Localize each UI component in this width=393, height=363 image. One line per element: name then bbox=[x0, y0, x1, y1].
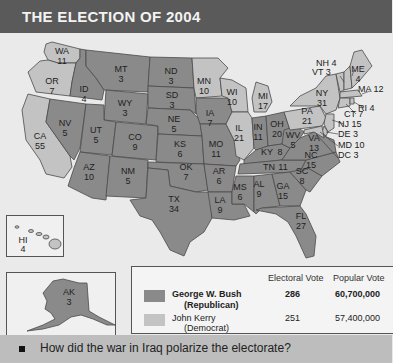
kerry-party: (Democrat) bbox=[184, 323, 229, 334]
svg-text:21: 21 bbox=[302, 116, 312, 126]
state-fl[interactable] bbox=[256, 206, 316, 258]
svg-text:ME: ME bbox=[351, 64, 365, 74]
bush-popular: 60,700,000 bbox=[335, 289, 380, 299]
popular-vote-header: Popular Vote bbox=[333, 273, 385, 283]
svg-text:MS: MS bbox=[233, 182, 247, 192]
question-text: How did the war in Iraq polarize the ele… bbox=[40, 341, 291, 355]
svg-text:4: 4 bbox=[20, 244, 25, 254]
svg-text:OR: OR bbox=[45, 76, 59, 86]
svg-text:55: 55 bbox=[35, 141, 45, 151]
svg-text:7: 7 bbox=[207, 118, 212, 128]
svg-text:4: 4 bbox=[81, 94, 86, 104]
svg-text:SD: SD bbox=[166, 90, 179, 100]
svg-text:3: 3 bbox=[122, 108, 127, 118]
bush-electoral: 286 bbox=[285, 289, 300, 299]
svg-text:5: 5 bbox=[125, 176, 130, 186]
svg-text:OK: OK bbox=[179, 162, 192, 172]
svg-text:NM: NM bbox=[121, 166, 135, 176]
svg-text:WA: WA bbox=[55, 46, 69, 56]
svg-text:NJ 15: NJ 15 bbox=[338, 119, 362, 129]
svg-text:WI: WI bbox=[227, 87, 238, 97]
svg-text:LA: LA bbox=[214, 195, 225, 205]
republican-swatch bbox=[144, 290, 165, 302]
state-ri[interactable] bbox=[350, 98, 354, 104]
svg-text:OH: OH bbox=[270, 119, 284, 129]
svg-text:3: 3 bbox=[169, 100, 174, 110]
state-hi-island[interactable] bbox=[15, 226, 19, 228]
svg-text:DE 3: DE 3 bbox=[338, 129, 358, 139]
svg-text:AL: AL bbox=[253, 179, 264, 189]
svg-text:UT: UT bbox=[90, 125, 102, 135]
democrat-swatch bbox=[144, 314, 165, 326]
hawaii-inset: HI 4 bbox=[6, 215, 64, 257]
svg-text:8: 8 bbox=[299, 176, 304, 186]
svg-text:NY: NY bbox=[316, 88, 329, 98]
svg-text:5: 5 bbox=[93, 135, 98, 145]
state-hi-island[interactable] bbox=[36, 233, 42, 236]
svg-text:15: 15 bbox=[306, 160, 316, 170]
svg-text:IL: IL bbox=[235, 123, 243, 133]
svg-text:11: 11 bbox=[278, 162, 287, 172]
svg-text:VA: VA bbox=[308, 133, 319, 143]
svg-text:6: 6 bbox=[216, 176, 221, 186]
svg-text:6: 6 bbox=[237, 192, 242, 202]
svg-text:ID: ID bbox=[80, 84, 90, 94]
svg-text:ND: ND bbox=[165, 66, 178, 76]
svg-text:27: 27 bbox=[296, 221, 306, 231]
state-hi-island[interactable] bbox=[29, 230, 34, 233]
map-title: THE ELECTION OF 2004 bbox=[22, 8, 201, 25]
title-bar: THE ELECTION OF 2004 bbox=[0, 0, 392, 33]
svg-text:NV: NV bbox=[59, 118, 72, 128]
question-bar: How did the war in Iraq polarize the ele… bbox=[0, 335, 392, 363]
svg-text:11: 11 bbox=[211, 149, 220, 159]
svg-text:CO: CO bbox=[128, 132, 142, 142]
svg-text:TN: TN bbox=[263, 162, 275, 172]
kerry-popular: 57,400,000 bbox=[335, 313, 380, 323]
svg-text:31: 31 bbox=[317, 98, 327, 108]
svg-text:TX: TX bbox=[168, 194, 180, 204]
svg-text:10: 10 bbox=[199, 86, 209, 96]
svg-text:3: 3 bbox=[168, 76, 173, 86]
svg-text:DC 3: DC 3 bbox=[338, 150, 359, 160]
svg-text:GA: GA bbox=[276, 181, 289, 191]
svg-text:9: 9 bbox=[217, 205, 222, 215]
bush-name: George W. Bush bbox=[172, 289, 242, 300]
svg-text:3: 3 bbox=[118, 74, 123, 84]
svg-text:IA: IA bbox=[206, 108, 215, 118]
svg-text:NE: NE bbox=[168, 114, 181, 124]
svg-text:WY: WY bbox=[118, 98, 133, 108]
svg-text:MO: MO bbox=[209, 139, 224, 149]
bush-party: (Republican) bbox=[184, 300, 239, 311]
hawaii-map: HI 4 bbox=[7, 216, 63, 256]
svg-text:5: 5 bbox=[171, 124, 176, 134]
alaska-map: AK 3 bbox=[7, 273, 115, 337]
svg-text:CT 7: CT 7 bbox=[344, 109, 363, 119]
svg-text:10: 10 bbox=[84, 172, 94, 182]
svg-text:PA: PA bbox=[301, 106, 312, 116]
svg-text:34: 34 bbox=[169, 204, 179, 214]
svg-text:8: 8 bbox=[277, 147, 282, 157]
svg-text:WV: WV bbox=[286, 130, 301, 140]
svg-text:10: 10 bbox=[227, 97, 237, 107]
svg-text:MI: MI bbox=[258, 91, 268, 101]
svg-text:6: 6 bbox=[177, 149, 182, 159]
state-hi-island[interactable] bbox=[43, 235, 49, 239]
kerry-electoral: 251 bbox=[285, 313, 300, 323]
svg-text:VT 3: VT 3 bbox=[312, 67, 331, 77]
svg-text:7: 7 bbox=[183, 172, 188, 182]
svg-text:3: 3 bbox=[66, 297, 71, 307]
svg-text:11: 11 bbox=[57, 56, 66, 66]
svg-text:CA: CA bbox=[34, 131, 47, 141]
svg-text:MN: MN bbox=[197, 76, 211, 86]
svg-text:MT: MT bbox=[115, 64, 128, 74]
svg-text:AR: AR bbox=[213, 166, 226, 176]
svg-text:KS: KS bbox=[174, 139, 186, 149]
svg-text:4: 4 bbox=[355, 74, 360, 84]
svg-text:17: 17 bbox=[258, 101, 268, 111]
svg-text:21: 21 bbox=[234, 133, 244, 143]
svg-text:IN: IN bbox=[254, 122, 263, 132]
electoral-vote-header: Electoral Vote bbox=[268, 273, 324, 283]
svg-text:9: 9 bbox=[256, 189, 261, 199]
state-hi[interactable] bbox=[49, 239, 61, 249]
svg-text:11: 11 bbox=[253, 132, 262, 142]
